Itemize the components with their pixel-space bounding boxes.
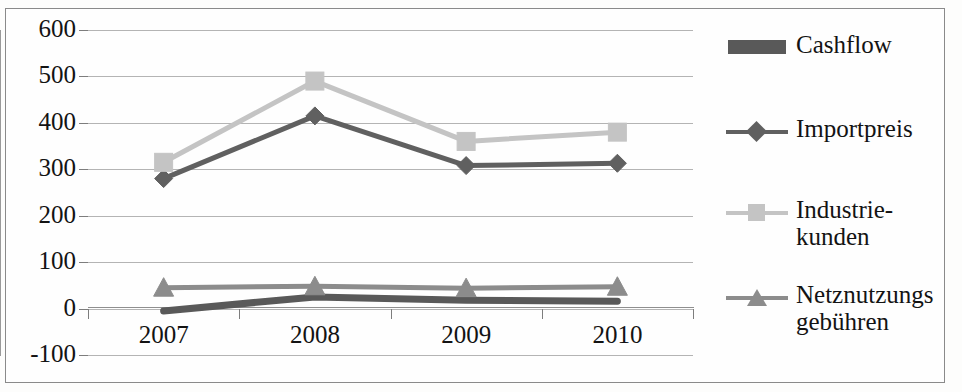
data-point-marker [306,72,324,90]
series-line [164,297,618,311]
chart-legend: CashflowImportpreisIndustrie- kundenNetz… [726,34,941,354]
legend-square-marker-icon [748,204,765,221]
legend-item-label: Cashflow [796,31,892,58]
y-axis-tick-label: -100 [0,341,76,366]
data-point-marker [306,107,324,125]
series-1 [164,297,618,311]
legend-item-label: Importpreis [796,115,913,142]
y-axis-tick-mark [79,216,88,217]
x-axis-tick-mark [693,309,694,319]
legend-item-2[interactable]: Importpreis [726,118,913,144]
legend-swatch-icon [726,118,788,144]
data-point-marker [457,132,475,150]
legend-bar-icon [728,40,786,54]
legend-item-4[interactable]: Netznutzungs gebühren [726,284,933,335]
y-axis-tick-mark [79,123,88,124]
y-axis-tick-label: 500 [0,62,76,87]
series-2 [155,107,627,188]
y-axis-tick-label: 0 [0,295,76,320]
legend-swatch-icon [726,34,788,60]
legend-item-3[interactable]: Industrie- kunden [726,199,893,250]
data-point-marker [608,154,626,172]
y-axis-tick-mark [79,355,88,356]
y-axis-tick-mark [79,309,88,310]
legend-diamond-marker-icon [746,121,767,142]
series-line [164,286,618,288]
y-axis-line [0,30,1,356]
data-point-marker [608,123,626,141]
y-axis-tick-label: 100 [0,248,76,273]
y-axis-tick-label: 200 [0,202,76,227]
series-3 [155,72,627,171]
legend-swatch-icon [726,199,788,225]
y-axis-tick-mark [79,30,88,31]
y-axis-tick-mark [79,76,88,77]
series-layer [88,30,693,355]
legend-item-label: Industrie- kunden [796,196,893,250]
data-point-marker [155,153,173,171]
series-4 [154,276,628,296]
y-axis-tick-label: 400 [0,109,76,134]
data-point-marker [457,157,475,175]
legend-item-label: Netznutzungs gebühren [796,281,933,335]
y-axis-tick-label: 300 [0,155,76,180]
gridline [88,355,693,356]
y-axis-tick-label: 600 [0,16,76,41]
legend-triangle-marker-icon [747,289,767,306]
legend-item-1[interactable]: Cashflow [726,34,892,60]
data-point-marker [155,170,173,188]
legend-swatch-icon [726,284,788,310]
y-axis-tick-mark [79,169,88,170]
chart-container: 6005004003002001000-100 2007200820092010… [0,0,962,392]
y-axis-tick-mark [79,262,88,263]
